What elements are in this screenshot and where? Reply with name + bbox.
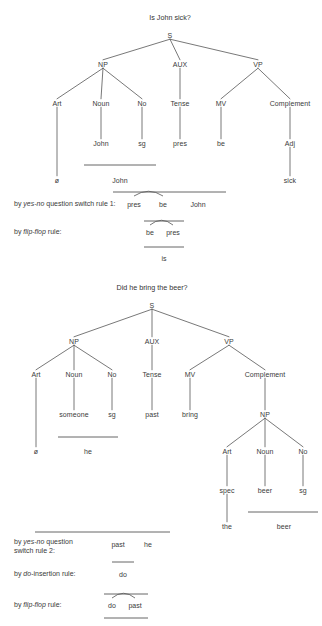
tree-edge-d2-np-to-d2-art bbox=[36, 345, 74, 370]
tree-edge-d2-vp-to-d2-complement bbox=[229, 345, 265, 370]
syntax-derivation-figure: Is John sick?SNPAUXVPArtNounNoTenseMVCom… bbox=[0, 0, 322, 626]
tree-node-d2-sg: sg bbox=[108, 411, 116, 418]
rule-label-d2-rule-3: by flip-flop rule: bbox=[14, 600, 61, 609]
tree-node-d2-s: S bbox=[150, 302, 155, 309]
rule-token-d2-rule-2-0: do bbox=[119, 571, 127, 578]
tree-node-d2-tense: Tense bbox=[142, 371, 161, 378]
tree-node-d2-mv: MV bbox=[185, 371, 196, 378]
rule-token-d1-rule-1-0: pres bbox=[127, 201, 141, 208]
rule-token-d1-rule-2-1: pres bbox=[166, 229, 180, 236]
tree-edge-d2-innerNP-to-d2-no2 bbox=[265, 418, 303, 447]
tree-line-layer bbox=[0, 0, 322, 626]
tree-edge-d2-s-to-d2-vp bbox=[152, 309, 229, 337]
rule-token-d1-rule-1-2: John bbox=[190, 201, 205, 208]
tree-node-d2-complement: Complement bbox=[245, 371, 286, 378]
tree-node-d1-noun: Noun bbox=[92, 100, 109, 107]
rule-token-d2-rule-1-0: past bbox=[111, 541, 124, 548]
tree-node-d2-np: NP bbox=[69, 338, 79, 345]
tree-node-d2-sg2: sg bbox=[299, 487, 307, 494]
rule-token-d2-rule-3-1: past bbox=[128, 602, 141, 609]
rule-label-d2-rule-2: by do-insertion rule: bbox=[14, 569, 76, 578]
tree-node-d2-past: past bbox=[145, 411, 159, 418]
tree-node-d2-null: ø bbox=[34, 448, 38, 455]
tree-node-d1-adj: Adj bbox=[285, 140, 295, 147]
rule-label-d2-rule-1: by yes-no questionswitch rule 2: bbox=[14, 537, 73, 555]
tree-node-d1-np: NP bbox=[98, 61, 108, 68]
tree-edge-d2-innerNP-to-d2-art2 bbox=[227, 418, 265, 447]
tree-node-d1-aux: AUX bbox=[173, 61, 188, 68]
rule-token-d1-rule-2-0: be bbox=[146, 229, 154, 236]
tree-edge-d1-s-to-d1-aux bbox=[170, 39, 180, 60]
rule-label-d1-rule-2: by flip-flop rule: bbox=[14, 227, 61, 236]
tree-node-d2-he: he bbox=[84, 448, 92, 455]
tree-node-d2-vp: VP bbox=[224, 338, 234, 345]
derivation-title-1: Is John sick? bbox=[149, 14, 191, 21]
tree-edge-d1-s-to-d1-np bbox=[103, 39, 170, 60]
tree-node-d2-bring: bring bbox=[182, 411, 198, 418]
tree-edge-d1-vp-to-d1-mv bbox=[221, 68, 258, 99]
rule-token-d2-rule-3-0: do bbox=[108, 602, 116, 609]
rule-token-d2-rule-1-1: he bbox=[144, 541, 152, 548]
tree-node-d2-the: the bbox=[222, 523, 232, 530]
tree-node-d2-art2: Art bbox=[222, 448, 231, 455]
tree-node-d1-pres: pres bbox=[173, 140, 187, 147]
tree-edge-d1-vp-to-d1-complement bbox=[258, 68, 290, 99]
tree-node-d2-beersurf: beer bbox=[277, 523, 291, 530]
tree-node-d2-someone: someone bbox=[59, 411, 89, 418]
tree-node-d1-tense: Tense bbox=[170, 100, 189, 107]
tree-node-d2-no2: No bbox=[298, 448, 307, 455]
rule-label-d1-rule-1: by yes-no question switch rule 1: bbox=[14, 199, 116, 208]
tree-edge-d2-np-to-d2-no bbox=[74, 345, 112, 370]
tree-node-d2-spec: spec bbox=[219, 487, 234, 494]
tree-edge-d2-s-to-d2-np bbox=[74, 309, 152, 337]
tree-node-d1-john: John bbox=[93, 140, 109, 147]
tree-node-d1-complement: Complement bbox=[270, 100, 311, 107]
tree-node-d1-s: S bbox=[168, 32, 173, 39]
tree-edge-d1-np-to-d1-no bbox=[103, 68, 142, 99]
tree-node-d2-noun2: Noun bbox=[256, 448, 273, 455]
tree-node-d1-sg: sg bbox=[138, 140, 146, 147]
tree-edge-d1-s-to-d1-vp bbox=[170, 39, 258, 60]
tree-node-d2-noun: Noun bbox=[65, 371, 82, 378]
derivation-title-2: Did he bring the beer? bbox=[116, 284, 187, 291]
tree-edge-d1-np-to-d1-art bbox=[57, 68, 103, 99]
tree-node-d1-no: No bbox=[137, 100, 146, 107]
tree-edge-d2-vp-to-d2-mv bbox=[190, 345, 229, 370]
tree-node-d2-no: No bbox=[107, 371, 116, 378]
tree-node-d2-beer: beer bbox=[258, 487, 272, 494]
tree-node-d2-art: Art bbox=[31, 371, 40, 378]
result-token-derivation-1: is bbox=[161, 255, 166, 262]
tree-node-d1-art: Art bbox=[52, 100, 61, 107]
tree-node-d1-vp: VP bbox=[253, 61, 263, 68]
tree-edge-d1-np-to-d1-noun bbox=[101, 68, 103, 99]
tree-node-d1-null: ø bbox=[55, 177, 59, 184]
tree-node-d1-sick: sick bbox=[284, 177, 296, 184]
tree-node-d1-be: be bbox=[217, 140, 225, 147]
tree-node-d1-mv: MV bbox=[216, 100, 227, 107]
tree-node-d2-aux: AUX bbox=[145, 338, 160, 345]
rule-token-d1-rule-1-1: be bbox=[159, 201, 167, 208]
tree-node-d1-johnsurf: John bbox=[112, 177, 128, 184]
tree-node-d2-innerNP: NP bbox=[260, 411, 270, 418]
